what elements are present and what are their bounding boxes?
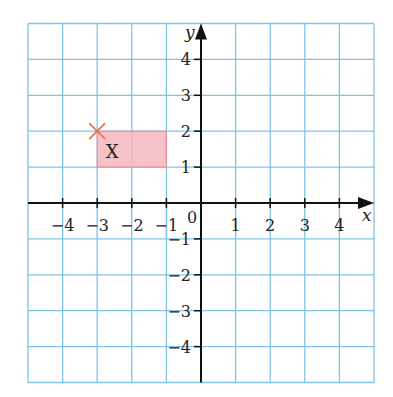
y-tick-label: −1: [167, 230, 191, 249]
axes: [28, 24, 374, 383]
x-tick-label: 4: [334, 216, 344, 235]
y-tick-label: 2: [181, 122, 191, 141]
y-tick-label: 1: [181, 158, 191, 177]
y-tick-label: −4: [167, 338, 191, 357]
x-tick-label: 3: [300, 216, 310, 235]
x-axis-label: x: [362, 205, 372, 225]
y-tick-label: 4: [181, 50, 191, 69]
tick-labels: −4−3−2−112344321−1−2−3−40xy: [51, 22, 372, 357]
origin-label: 0: [187, 208, 197, 227]
shape-x: X: [97, 131, 166, 167]
x-tick-label: −4: [51, 216, 75, 235]
y-tick-label: −3: [167, 302, 191, 321]
y-axis-label: y: [184, 22, 195, 42]
coordinate-grid-diagram: X −4−3−2−112344321−1−2−3−40xy: [0, 0, 393, 397]
x-tick-label: 2: [265, 216, 275, 235]
y-tick-label: 3: [181, 86, 191, 105]
x-tick-label: −2: [120, 216, 144, 235]
y-axis-arrow-icon: [195, 24, 207, 40]
shape-label: X: [106, 141, 119, 162]
x-tick-label: 1: [231, 216, 241, 235]
x-tick-label: −3: [85, 216, 109, 235]
y-tick-label: −2: [167, 266, 191, 285]
